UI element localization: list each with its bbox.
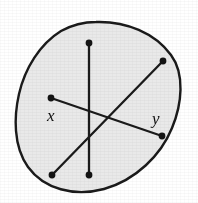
figure-container: x y — [0, 0, 198, 203]
label-x: x — [46, 106, 55, 125]
endpoint-y — [159, 133, 166, 140]
endpoint-x — [48, 95, 55, 102]
blob-region-diagram: x y — [0, 0, 198, 203]
label-y: y — [150, 109, 160, 128]
endpoint-vertical-bottom — [86, 172, 93, 179]
endpoint-diagonal-bottom-left — [49, 172, 56, 179]
endpoint-vertical-top — [86, 40, 93, 47]
endpoint-diagonal-top-right — [160, 58, 167, 65]
